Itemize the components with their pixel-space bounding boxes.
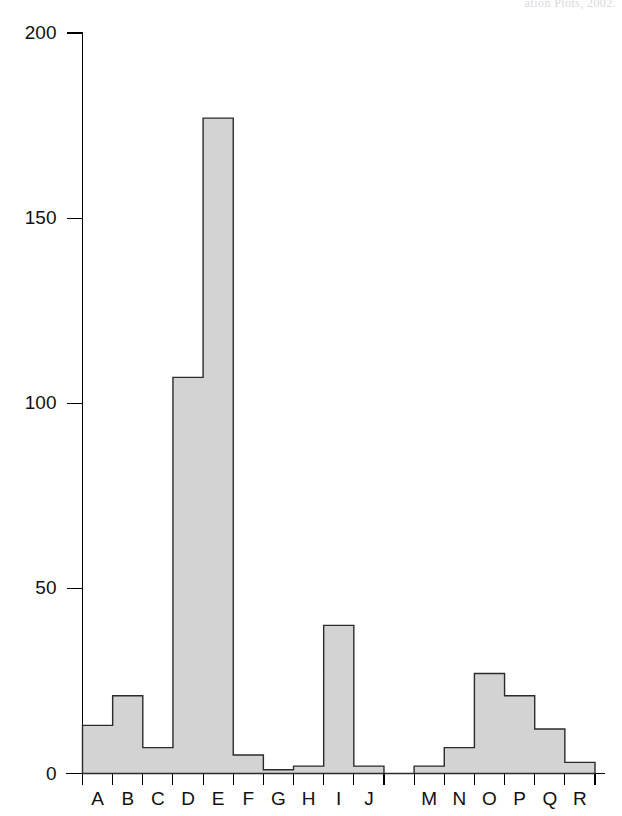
x-tick-label-E: E xyxy=(212,788,225,809)
bar-chart-svg: 050100150200 ABCDEFGHIJMNOPQR xyxy=(0,0,622,816)
x-tick-label-O: O xyxy=(482,788,497,809)
x-tick-label-B: B xyxy=(121,788,134,809)
y-tick-label-0: 0 xyxy=(46,763,57,784)
x-axis-ticks xyxy=(83,774,596,785)
x-tick-label-N: N xyxy=(452,788,466,809)
bars-group xyxy=(83,118,596,773)
x-tick-label-I: I xyxy=(336,788,341,809)
histogram-outline xyxy=(83,118,596,773)
x-axis: ABCDEFGHIJMNOPQR xyxy=(66,774,605,809)
x-tick-label-M: M xyxy=(421,788,437,809)
y-tick-label-150: 150 xyxy=(25,207,57,228)
x-tick-label-D: D xyxy=(181,788,195,809)
y-tick-label-200: 200 xyxy=(25,22,57,43)
x-tick-label-A: A xyxy=(91,788,104,809)
x-tick-label-R: R xyxy=(573,788,587,809)
x-tick-label-C: C xyxy=(151,788,165,809)
x-tick-label-G: G xyxy=(271,788,286,809)
y-tick-label-100: 100 xyxy=(25,392,57,413)
plot-area: 050100150200 ABCDEFGHIJMNOPQR xyxy=(0,0,622,816)
x-tick-label-H: H xyxy=(302,788,316,809)
y-axis-ticks xyxy=(67,33,83,774)
x-tick-label-Q: Q xyxy=(542,788,557,809)
x-tick-label-P: P xyxy=(513,788,526,809)
y-axis-tick-labels: 050100150200 xyxy=(25,22,57,784)
figure-container: ation Plots, 2002. 050100150200 ABCDEFGH… xyxy=(0,0,622,816)
x-tick-label-J: J xyxy=(364,788,374,809)
x-axis-tick-labels: ABCDEFGHIJMNOPQR xyxy=(91,788,587,809)
y-tick-label-50: 50 xyxy=(35,577,56,598)
x-tick-label-F: F xyxy=(243,788,255,809)
y-axis: 050100150200 xyxy=(25,22,83,784)
